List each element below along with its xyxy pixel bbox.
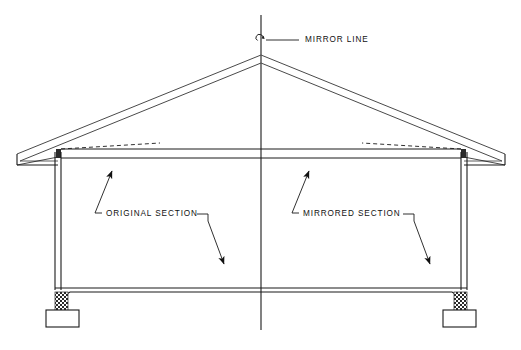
eave-block-left (56, 149, 61, 158)
mirror-line-label: MIRROR LINE (305, 35, 369, 44)
building-section-diagram: MIRROR LINE ORIGINAL SECTION MIRRORED SE… (0, 0, 521, 350)
eave-block-right (461, 149, 466, 158)
original-section-label: ORIGINAL SECTION (106, 209, 198, 218)
mirrored-section-label: MIRRORED SECTION (303, 209, 401, 218)
footing-pad-left (46, 310, 79, 327)
footing-pad-right (443, 310, 476, 327)
section-drawing-canvas: MIRROR LINE ORIGINAL SECTION MIRRORED SE… (0, 0, 521, 350)
